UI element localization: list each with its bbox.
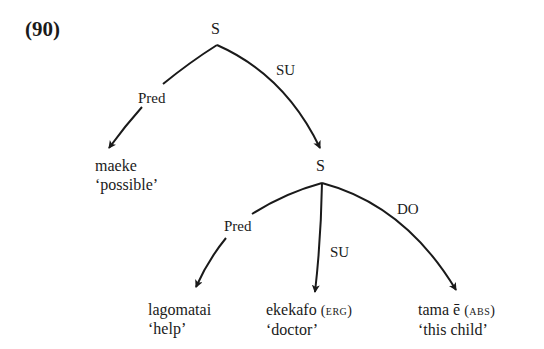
emb-do-edge-label: DO	[397, 200, 419, 218]
emb-su-edge-label: SU	[330, 243, 349, 261]
syntax-tree-diagram: (90) S Pred SU maeke ‘possible’ S Pred S…	[0, 0, 544, 349]
edge-emb-pred-lower	[196, 238, 226, 287]
root-pred-edge-label: Pred	[138, 89, 166, 107]
leaf-tama-e: tama ē (abs) ‘this child’	[418, 300, 495, 339]
root-su-edge-label: SU	[276, 61, 295, 79]
embedded-s-node: S	[316, 157, 325, 175]
leaf-word: maeke	[95, 156, 158, 175]
edge-emb-pred-upper	[252, 183, 322, 214]
leaf-gloss: ‘this child’	[418, 320, 495, 339]
tree-edges	[0, 0, 544, 349]
example-number: (90)	[25, 20, 60, 38]
edge-root-pred-upper	[163, 45, 217, 84]
leaf-maeke: maeke ‘possible’	[95, 156, 158, 194]
edge-emb-su	[315, 183, 322, 292]
leaf-lagomatai: lagomatai ‘help’	[148, 300, 211, 338]
root-s-node: S	[211, 20, 220, 38]
emb-pred-edge-label: Pred	[224, 217, 252, 235]
leaf-gloss: ‘doctor’	[266, 320, 352, 339]
leaf-gloss: ‘possible’	[95, 175, 158, 194]
leaf-word: ekekafo	[266, 301, 317, 318]
leaf-word: tama ē	[418, 301, 460, 318]
edge-root-pred-lower	[109, 107, 142, 148]
leaf-word: lagomatai	[148, 300, 211, 319]
leaf-word-line: tama ē (abs)	[418, 300, 495, 320]
leaf-ekekafo: ekekafo (erg) ‘doctor’	[266, 300, 352, 339]
case-marker-abs: (abs)	[464, 303, 495, 318]
leaf-gloss: ‘help’	[148, 319, 211, 338]
leaf-word-line: ekekafo (erg)	[266, 300, 352, 320]
edge-root-su	[217, 45, 320, 148]
edge-emb-do	[322, 183, 456, 290]
case-marker-erg: (erg)	[321, 303, 353, 318]
